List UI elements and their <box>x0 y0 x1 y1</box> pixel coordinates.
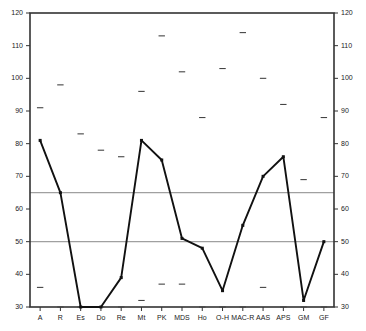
y-axis-left-tick-label: 110 <box>3 42 23 50</box>
y-axis-left-tick-label: 80 <box>3 140 23 148</box>
y-axis-right-tick-label: 110 <box>341 42 361 50</box>
y-axis-left-tick-label: 100 <box>3 74 23 82</box>
axis-frame-group <box>30 13 334 307</box>
data-point-marker <box>120 276 123 279</box>
data-point-marker <box>79 306 82 309</box>
x-axis-tick-label-GF: GF <box>307 314 341 322</box>
chart-container: 30405060708090100110120 3040506070809010… <box>0 0 366 331</box>
profile-line-group <box>40 140 324 307</box>
y-axis-left-tick-label: 70 <box>3 172 23 180</box>
line-chart-plot <box>0 0 366 331</box>
y-axis-right-tick-label: 100 <box>341 74 361 82</box>
data-point-marker <box>201 247 204 250</box>
data-point-marker <box>140 139 143 142</box>
data-point-marker <box>221 289 224 292</box>
data-point-marker <box>282 155 285 158</box>
data-point-marker <box>241 224 244 227</box>
data-point-marker <box>39 139 42 142</box>
y-axis-left-tick-label: 120 <box>3 9 23 17</box>
data-point-marker <box>262 175 265 178</box>
data-point-marker <box>302 299 305 302</box>
y-axis-left-tick-label: 40 <box>3 270 23 278</box>
y-axis-left-tick-label: 30 <box>3 303 23 311</box>
y-axis-right-tick-label: 70 <box>341 172 361 180</box>
data-point-marker <box>59 191 62 194</box>
reference-lines-group <box>30 193 334 242</box>
y-axis-left-tick-label: 50 <box>3 238 23 246</box>
y-axis-right-tick-label: 30 <box>341 303 361 311</box>
plot-frame <box>30 13 334 307</box>
y-axis-right-tick-label: 80 <box>341 140 361 148</box>
y-axis-right-tick-label: 60 <box>341 205 361 213</box>
y-axis-right-tick-label: 50 <box>341 238 361 246</box>
y-axis-left-tick-label: 60 <box>3 205 23 213</box>
y-axis-right-tick-label: 40 <box>341 270 361 278</box>
data-point-marker <box>160 159 163 162</box>
y-axis-right-tick-label: 120 <box>341 9 361 17</box>
data-point-marker <box>322 240 325 243</box>
profile-line <box>40 140 324 307</box>
data-point-marker <box>99 306 102 309</box>
y-axis-left-tick-label: 90 <box>3 107 23 115</box>
profile-points-group <box>39 139 326 309</box>
y-axis-right-tick-label: 90 <box>341 107 361 115</box>
data-point-marker <box>181 237 184 240</box>
